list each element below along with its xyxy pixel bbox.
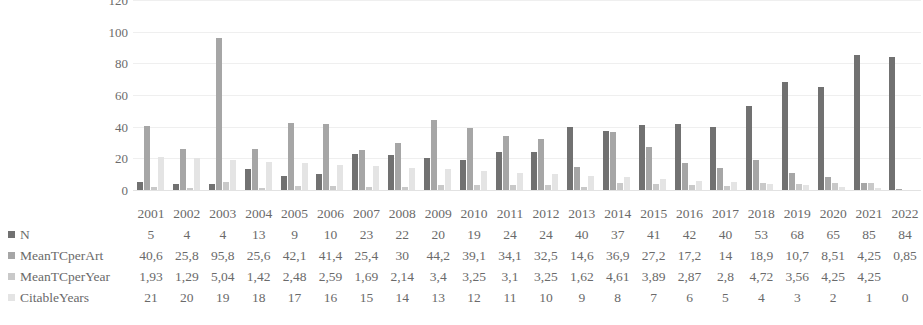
table-cell: 13 — [241, 224, 277, 245]
table-cell: 8,51 — [815, 245, 851, 266]
table-cell: 7 — [636, 287, 672, 308]
bar-MeanTCperYear-2013 — [581, 187, 587, 190]
table-cell: 18,9 — [743, 245, 779, 266]
table-cell: 40 — [564, 224, 600, 245]
bar-N-2008 — [388, 155, 394, 190]
bar-MeanTCperYear-2017 — [724, 186, 730, 190]
bar-group — [276, 0, 312, 190]
table-cell: 4 — [743, 287, 779, 308]
table-cell: 3 — [779, 287, 815, 308]
bar-CitableYears-2002 — [194, 158, 200, 190]
table-header-row: 2001200220032004200520062007200820092010… — [0, 203, 923, 224]
bar-CitableYears-2003 — [230, 160, 236, 190]
bar-N-2010 — [460, 160, 466, 190]
table-cell: 4,61 — [600, 266, 636, 287]
table-cell: 9 — [277, 224, 313, 245]
bar-CitableYears-2009 — [445, 169, 451, 190]
table-cell: 30 — [384, 245, 420, 266]
column-header-year: 2013 — [564, 203, 600, 224]
table-cell: 25,4 — [348, 245, 384, 266]
table-cell: 39,1 — [456, 245, 492, 266]
bar-MeanTCperArt-2005 — [288, 123, 294, 190]
bar-N-2002 — [173, 184, 179, 190]
table-cell: 3,25 — [456, 266, 492, 287]
bar-CitableYears-2007 — [373, 166, 379, 190]
table-cell: 68 — [779, 224, 815, 245]
bar-MeanTCperArt-2010 — [467, 128, 473, 190]
legend-item-MeanTCperArt[interactable]: MeanTCperArt — [0, 245, 133, 266]
table-cell: 5,04 — [205, 266, 241, 287]
bar-MeanTCperArt-2018 — [753, 160, 759, 190]
bar-CitableYears-2014 — [624, 177, 630, 190]
table-cell: 4,25 — [851, 266, 887, 287]
bar-MeanTCperArt-2004 — [252, 149, 258, 190]
bar-N-2021 — [854, 55, 860, 190]
bar-group — [599, 0, 635, 190]
table-cell — [887, 266, 923, 287]
column-header-year: 2014 — [600, 203, 636, 224]
table-row: MeanTCperArt40,625,895,825,642,141,425,4… — [0, 245, 923, 266]
bar-MeanTCperYear-2020 — [832, 183, 838, 190]
bar-MeanTCperYear-2019 — [796, 184, 802, 190]
bar-group — [240, 0, 276, 190]
table-cell: 10,7 — [779, 245, 815, 266]
column-header-year: 2015 — [636, 203, 672, 224]
bar-N-2012 — [531, 152, 537, 190]
bar-group — [634, 0, 670, 190]
table-cell: 1,42 — [241, 266, 277, 287]
bar-MeanTCperYear-2009 — [438, 185, 444, 190]
bars-area — [133, 0, 921, 190]
bar-MeanTCperYear-2010 — [474, 185, 480, 190]
bar-group — [706, 0, 742, 190]
table-body: 2001200220032004200520062007200820092010… — [0, 203, 923, 308]
bar-CitableYears-2016 — [696, 181, 702, 191]
bar-CitableYears-2019 — [803, 185, 809, 190]
bar-CitableYears-2015 — [660, 179, 666, 190]
bar-MeanTCperArt-2021 — [861, 183, 867, 190]
table-cell: 25,8 — [169, 245, 205, 266]
bar-MeanTCperArt-2011 — [503, 136, 509, 190]
bar-N-2015 — [639, 125, 645, 190]
legend-label: MeanTCperYear — [20, 269, 110, 285]
bar-CitableYears-2012 — [552, 174, 558, 190]
table-cell: 1,62 — [564, 266, 600, 287]
table-cell: 1,29 — [169, 266, 205, 287]
table-cell: 3,89 — [636, 266, 672, 287]
bar-CitableYears-2017 — [731, 182, 737, 190]
table-cell: 3,56 — [779, 266, 815, 287]
legend-swatch-icon — [8, 294, 15, 301]
table-cell: 5 — [708, 287, 744, 308]
column-header-year: 2022 — [887, 203, 923, 224]
bar-CitableYears-2004 — [266, 162, 272, 191]
plot-area: 020406080100120 — [0, 0, 923, 208]
bar-N-2018 — [746, 106, 752, 190]
column-header-year: 2020 — [815, 203, 851, 224]
bar-group — [778, 0, 814, 190]
bar-group — [133, 0, 169, 190]
table-cell: 5 — [133, 224, 169, 245]
table-cell: 0 — [887, 287, 923, 308]
bar-N-2011 — [496, 152, 502, 190]
legend-item-N[interactable]: N — [0, 224, 133, 245]
table-cell: 15 — [348, 287, 384, 308]
bar-MeanTCperYear-2005 — [295, 186, 301, 190]
table-cell: 65 — [815, 224, 851, 245]
table-cell: 4,25 — [851, 245, 887, 266]
table-cell: 23 — [348, 224, 384, 245]
bar-MeanTCperYear-2016 — [689, 185, 695, 190]
legend-item-MeanTCperYear[interactable]: MeanTCperYear — [0, 266, 133, 287]
table-row: N544139102322201924244037414240536865858… — [0, 224, 923, 245]
table-cell: 24 — [492, 224, 528, 245]
bar-N-2003 — [209, 184, 215, 190]
legend-item-CitableYears[interactable]: CitableYears — [0, 287, 133, 308]
bar-MeanTCperYear-2006 — [330, 186, 336, 190]
table-cell: 22 — [384, 224, 420, 245]
table-cell: 3,1 — [492, 266, 528, 287]
bar-MeanTCperArt-2003 — [216, 38, 222, 190]
table-cell: 84 — [887, 224, 923, 245]
bar-MeanTCperYear-2007 — [366, 187, 372, 190]
bar-group — [348, 0, 384, 190]
column-header-year: 2011 — [492, 203, 528, 224]
y-axis-tick: 60 — [88, 89, 128, 102]
bar-N-2014 — [603, 131, 609, 190]
